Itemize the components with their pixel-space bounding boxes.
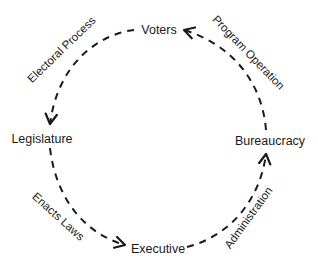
edge-program-operation-arc [184, 30, 266, 130]
node-voters: Voters [141, 24, 176, 37]
node-executive: Executive [131, 243, 185, 256]
edge-enacts-laws-arc [50, 148, 125, 245]
cycle-diagram: Voters Legislature Bureaucracy Executive… [0, 0, 318, 269]
node-legislature: Legislature [11, 133, 72, 146]
node-bureaucracy: Bureaucracy [235, 135, 305, 148]
